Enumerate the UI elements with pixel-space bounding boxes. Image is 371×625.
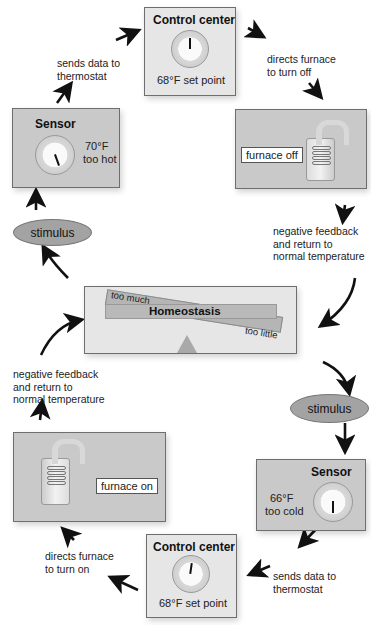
furnace-icon (41, 458, 70, 505)
control-center-panel-bottom: Control center 68°F set point (146, 534, 237, 618)
sensor-status: too cold (265, 505, 304, 518)
furnace-on-tag: furnace on (96, 478, 158, 494)
sends-data-label-bottom: sends data to thermostat (273, 570, 336, 595)
directs-furnace-on-label: directs furnace to turn on (45, 550, 114, 575)
stimulus-top: stimulus (13, 219, 92, 246)
thermostat-dial-icon (313, 482, 353, 522)
furnace-off-tag: furnace off (241, 147, 303, 163)
thermostat-dial-icon (172, 555, 210, 593)
furnace-pipe-icon (316, 120, 349, 145)
thermostat-dial-icon (35, 135, 75, 175)
sensor-panel-bottom: Sensor 66°F too cold (256, 459, 366, 531)
furnace-off-panel: furnace off (235, 109, 367, 189)
homeostasis-title: Homeostasis (149, 305, 221, 317)
set-point-caption: 68°F set point (159, 597, 227, 609)
sensor-reading: 70°F (85, 140, 108, 153)
control-center-title: Control center (153, 13, 235, 27)
fulcrum-triangle (177, 335, 197, 353)
thermostat-dial-icon (171, 30, 209, 68)
negative-feedback-label-bottom: negative feedback and return to normal t… (13, 368, 105, 406)
sensor-title: Sensor (35, 117, 76, 131)
sensor-panel-top: Sensor 70°F too hot (12, 108, 120, 188)
directs-furnace-off-label: directs furnace to turn off (267, 53, 336, 78)
sends-data-label-top: sends data to thermostat (57, 57, 120, 82)
sensor-title: Sensor (311, 465, 352, 479)
homeostasis-panel: Homeostasis too much too little (84, 286, 297, 354)
furnace-on-panel: furnace on (13, 432, 166, 522)
negative-feedback-label-top: negative feedback and return to normal t… (273, 225, 365, 263)
control-center-title: Control center (153, 540, 235, 554)
sensor-status: too hot (83, 153, 117, 166)
control-center-panel-top: Control center 68°F set point (144, 7, 236, 96)
furnace-pipe-icon (52, 439, 85, 464)
set-point-caption: 68°F set point (157, 74, 225, 86)
sensor-reading: 66°F (270, 492, 293, 505)
stimulus-bottom: stimulus (290, 394, 369, 423)
